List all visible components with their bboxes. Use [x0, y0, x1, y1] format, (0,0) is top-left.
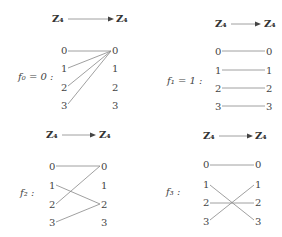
domain-elem: 1 — [61, 63, 67, 74]
codomain-elem: 0 — [255, 159, 261, 170]
map-label: f₁ = 1 : — [166, 75, 202, 86]
domain-elem: 0 — [49, 161, 55, 172]
map-label: f₀ = 0 : — [17, 71, 53, 82]
domain-elem: 0 — [203, 159, 209, 170]
map-line — [68, 51, 111, 86]
domain-elem: 3 — [203, 216, 209, 227]
domain-label: Z₄ — [215, 18, 227, 29]
codomain-elem: 2 — [266, 83, 272, 94]
f1-diagram: Z₄ Z₄ f₁ = 1 : 0 1 2 3 0 1 2 3 — [141, 0, 282, 118]
map-panel-f1: Z₄ Z₄ f₁ = 1 : 0 1 2 3 0 1 2 3 — [141, 0, 282, 118]
domain-label: Z₄ — [203, 130, 215, 141]
domain-elem: 3 — [215, 101, 221, 112]
codomain-elem: 3 — [112, 100, 118, 111]
domain-elem: 3 — [49, 217, 55, 228]
map-line — [56, 166, 100, 204]
domain-label: Z₄ — [52, 13, 64, 24]
f0-diagram: Z₄ Z₄ f₀ = 0 : 0 1 2 3 0 1 2 3 — [0, 0, 141, 118]
map-panel-f2: Z₄ Z₄ f₂ : 0 1 2 3 0 1 2 3 — [0, 118, 141, 236]
map-panel-f3: Z₄ Z₄ f₃ : 0 1 2 3 0 1 2 3 — [141, 118, 282, 236]
codomain-elem: 1 — [101, 180, 107, 191]
codomain-elem: 3 — [255, 216, 261, 227]
domain-elem: 1 — [49, 180, 55, 191]
codomain-elem: 3 — [101, 217, 107, 228]
codomain-elem: 0 — [266, 46, 272, 57]
codomain-label: Z₄ — [264, 18, 276, 29]
codomain-label: Z₄ — [255, 130, 267, 141]
domain-elem: 0 — [61, 45, 67, 56]
codomain-label: Z₄ — [116, 13, 128, 24]
map-panel-f0: Z₄ Z₄ f₀ = 0 : 0 1 2 3 0 1 2 3 — [0, 0, 141, 118]
codomain-elem: 2 — [255, 197, 261, 208]
codomain-elem: 1 — [266, 65, 272, 76]
domain-elem: 2 — [61, 82, 67, 93]
map-line — [68, 51, 111, 104]
f3-diagram: Z₄ Z₄ f₃ : 0 1 2 3 0 1 2 3 — [141, 118, 282, 237]
arrow-head-icon — [108, 17, 114, 22]
codomain-elem: 1 — [255, 179, 261, 190]
codomain-elem: 0 — [112, 45, 118, 56]
codomain-elem: 0 — [101, 161, 107, 172]
domain-elem: 2 — [215, 83, 221, 94]
arrow-head-icon — [90, 133, 96, 138]
domain-elem: 2 — [49, 199, 55, 210]
f2-diagram: Z₄ Z₄ f₂ : 0 1 2 3 0 1 2 3 — [0, 118, 141, 237]
map-line — [56, 185, 100, 204]
codomain-elem: 3 — [266, 101, 272, 112]
codomain-elem: 2 — [112, 82, 118, 93]
domain-elem: 2 — [203, 197, 209, 208]
map-label: f₂ : — [19, 187, 34, 198]
map-line — [56, 204, 100, 222]
domain-elem: 3 — [61, 100, 67, 111]
domain-elem: 1 — [215, 65, 221, 76]
codomain-elem: 2 — [101, 199, 107, 210]
map-label: f₃ : — [165, 186, 180, 197]
arrow-head-icon — [247, 134, 253, 139]
arrow-head-icon — [255, 22, 261, 27]
domain-elem: 1 — [203, 179, 209, 190]
domain-elem: 0 — [215, 46, 221, 57]
codomain-elem: 1 — [112, 63, 118, 74]
domain-label: Z₄ — [46, 129, 58, 140]
codomain-label: Z₄ — [99, 129, 111, 140]
